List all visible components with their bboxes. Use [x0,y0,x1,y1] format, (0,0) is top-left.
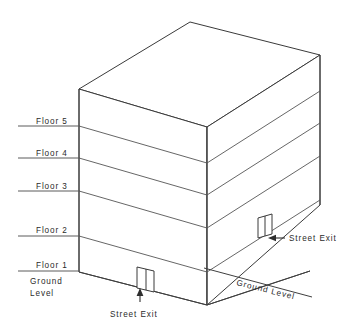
floor-label-2: Floor 2 [36,226,68,235]
front-door-group [137,267,154,302]
building-diagram-svg: Floor 5 Floor 4 Floor 3 Floor 2 Floor 1 … [0,0,352,327]
floor-label-4: Floor 4 [36,149,68,158]
floor-leader-lines [18,126,80,271]
street-exit-label-front: Street Exit [110,310,158,319]
floor-label-1: Floor 1 [36,261,68,270]
ground-level-label-left-line2: Level [30,289,54,298]
floor-label-5: Floor 5 [36,117,68,126]
ground-level-label-left: Ground Level [30,277,63,298]
ground-level-label-right-group: Ground Level [236,278,296,301]
street-exit-label-right: Street Exit [289,234,337,243]
ground-level-label-left-line1: Ground [30,277,63,286]
floor-label-group: Floor 5 Floor 4 Floor 3 Floor 2 Floor 1 [36,117,68,270]
floor-label-3: Floor 3 [36,182,68,191]
ground-level-label-right: Ground Level [236,278,296,301]
building-diagram: Floor 5 Floor 4 Floor 3 Floor 2 Floor 1 … [0,0,352,327]
building-mass [79,22,320,305]
